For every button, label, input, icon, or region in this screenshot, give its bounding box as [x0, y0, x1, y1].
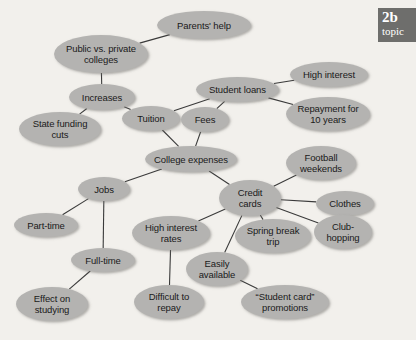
node-state-funding-cuts[interactable]: State funding cuts [19, 112, 101, 146]
edge-jobs-to-full-time [103, 201, 104, 248]
node-jobs[interactable]: Jobs [78, 177, 130, 201]
node-label: Student loans [209, 84, 266, 95]
node-label: Football weekends [300, 152, 342, 174]
edge-full-time-to-effect-on-studying [69, 271, 90, 289]
edge-credit-cards-to-high-interest-rates [198, 209, 225, 221]
edge-public-vs-private-to-parents-help [140, 35, 170, 44]
edge-jobs-to-part-time [63, 199, 89, 215]
edge-credit-cards-to-football-weekends [274, 175, 297, 186]
node-student-loans[interactable]: Student loans [196, 77, 279, 102]
node-label: Public vs. private colleges [66, 43, 136, 65]
edge-increases-to-state-funding-cuts [80, 109, 87, 115]
node-label: Spring break trip [247, 225, 300, 247]
edge-college-expenses-to-credit-cards [209, 171, 229, 185]
edge-fees-to-student-loans [217, 101, 225, 108]
node-label: Parents' help [177, 20, 231, 31]
concept-map: Parents' helpPublic vs. private colleges… [0, 0, 416, 340]
node-label: Club- hopping [326, 221, 359, 243]
node-repayment-10-years[interactable]: Repayment for 10 years [286, 97, 370, 131]
node-effect-on-studying[interactable]: Effect on studying [16, 287, 88, 321]
node-label: Full-time [85, 255, 121, 266]
edge-student-loans-to-repayment-10-years [268, 98, 293, 105]
node-label: Clothes [329, 198, 361, 209]
topic-badge-word: topic [382, 25, 416, 38]
node-label: Fees [195, 114, 216, 125]
node-club-hopping[interactable]: Club- hopping [314, 215, 372, 249]
node-clothes[interactable]: Clothes [316, 191, 374, 216]
node-label: Credit cards [238, 187, 263, 209]
node-increases[interactable]: Increases [69, 84, 135, 110]
node-difficult-to-repay[interactable]: Difficult to repay [134, 285, 204, 319]
topic-badge: 2b topic [378, 8, 416, 42]
node-label: Difficult to repay [149, 291, 189, 313]
node-label: College expenses [154, 154, 228, 165]
node-easily-available[interactable]: Easily available [186, 252, 248, 286]
node-high-interest-rates[interactable]: High interest rates [132, 216, 210, 250]
node-label: Part-time [27, 220, 65, 231]
node-high-interest[interactable]: High interest [290, 62, 368, 87]
edge-easily-available-to-student-card-promos [240, 280, 257, 288]
edge-fees-to-college-expenses [196, 132, 201, 146]
node-label: Effect on studying [34, 293, 70, 315]
node-tuition[interactable]: Tuition [122, 106, 180, 131]
node-football-weekends[interactable]: Football weekends [286, 146, 356, 180]
node-label: Increases [82, 92, 122, 103]
topic-badge-number: 2b [382, 10, 416, 25]
node-fees[interactable]: Fees [181, 107, 229, 132]
node-credit-cards[interactable]: Credit cards [219, 180, 281, 216]
node-label: Repayment for 10 years [297, 103, 358, 125]
node-label: High interest rates [145, 222, 197, 244]
node-part-time[interactable]: Part-time [14, 213, 78, 237]
edge-student-loans-to-high-interest [274, 80, 294, 83]
node-spring-break-trip[interactable]: Spring break trip [235, 219, 311, 253]
edge-high-interest-rates-to-difficult-to-repay [169, 250, 170, 285]
edge-college-expenses-to-jobs [125, 169, 162, 182]
node-label: High interest [303, 69, 355, 80]
node-label: Tuition [137, 113, 164, 124]
node-label: Easily available [199, 258, 236, 280]
edge-tuition-to-college-expenses [162, 130, 178, 146]
node-label: State funding cuts [33, 118, 88, 140]
edge-credit-cards-to-clothes [281, 200, 316, 202]
node-label: “Student card” promotions [256, 291, 315, 313]
node-full-time[interactable]: Full-time [71, 248, 135, 272]
node-public-vs-private[interactable]: Public vs. private colleges [54, 35, 148, 73]
node-college-expenses[interactable]: College expenses [145, 146, 237, 172]
node-parents-help[interactable]: Parents' help [157, 11, 251, 39]
node-label: Jobs [94, 184, 114, 195]
node-student-card-promos[interactable]: “Student card” promotions [241, 285, 329, 319]
